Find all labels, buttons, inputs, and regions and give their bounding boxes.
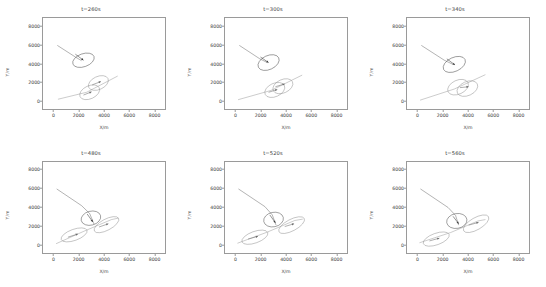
x-tick-mark [417, 110, 418, 112]
y-axis-label: Y/m [5, 211, 10, 220]
y-tick-labels: 02000400060008000 [12, 161, 40, 254]
plot-canvas [225, 162, 347, 253]
velocity-arrow [248, 235, 258, 238]
x-tick-label: 6000 [487, 113, 499, 118]
x-tick-labels: 02000400060008000 [42, 113, 166, 123]
x-axis-label: X/m [224, 125, 348, 130]
x-tick-mark [336, 254, 337, 256]
y-tick-label: 4000 [378, 61, 404, 66]
x-tick-mark [442, 254, 443, 256]
x-tick-label: 6000 [123, 113, 135, 118]
y-axis-label: Y/m [187, 67, 192, 76]
x-tick-label: 8000 [331, 257, 343, 262]
x-tick-label: 2000 [255, 113, 267, 118]
x-tick-labels: 02000400060008000 [406, 113, 530, 123]
x-tick-label: 0 [52, 257, 55, 262]
x-tick-label: 8000 [513, 113, 525, 118]
y-tick-label: 4000 [196, 205, 222, 210]
x-tick-mark [311, 110, 312, 112]
x-tick-mark [129, 110, 130, 112]
uncertainty-ellipse [454, 78, 480, 100]
y-tick-label: 4000 [14, 61, 40, 66]
x-tick-label: 2000 [73, 257, 85, 262]
plot-canvas [225, 18, 347, 109]
plot-panel: t=300sY/mX/m0200040006000800002000400060… [182, 0, 364, 144]
y-tick-labels: 02000400060008000 [376, 161, 404, 254]
y-axis-label: Y/m [5, 67, 10, 76]
uncertainty-ellipse [262, 79, 287, 100]
velocity-arrow [285, 223, 294, 226]
x-tick-mark [260, 254, 261, 256]
uncertainty-ellipse [59, 224, 89, 244]
x-tick-mark [311, 254, 312, 256]
x-tick-marks [224, 110, 348, 112]
x-tick-marks [42, 110, 166, 112]
velocity-arrow [99, 223, 108, 227]
x-tick-label: 4000 [462, 113, 474, 118]
y-axis-label: Y/m [187, 211, 192, 220]
x-tick-labels: 02000400060008000 [406, 257, 530, 267]
x-tick-labels: 02000400060008000 [224, 113, 348, 123]
x-tick-label: 8000 [331, 113, 343, 118]
x-axis-label: X/m [406, 269, 530, 274]
y-axis-label: Y/m [369, 211, 374, 220]
axes-frame [406, 17, 530, 110]
y-tick-label: 0 [378, 99, 404, 104]
y-tick-label: 2000 [196, 223, 222, 228]
x-tick-mark [78, 110, 79, 112]
y-tick-label: 8000 [14, 167, 40, 172]
trajectory-line [57, 45, 81, 60]
x-tick-mark [129, 254, 130, 256]
y-tick-labels: 02000400060008000 [376, 17, 404, 110]
x-tick-label: 6000 [305, 257, 317, 262]
axes-frame [224, 161, 348, 254]
velocity-arrow [87, 214, 93, 222]
trajectory-line [421, 45, 453, 64]
x-tick-labels: 02000400060008000 [224, 257, 348, 267]
panel-title: t=260s [0, 6, 182, 12]
x-tick-label: 8000 [149, 113, 161, 118]
x-tick-mark [286, 254, 287, 256]
panel-title: t=340s [364, 6, 546, 12]
velocity-arrow [429, 237, 439, 240]
y-tick-label: 0 [14, 242, 40, 247]
plot-canvas [43, 162, 165, 253]
y-tick-label: 6000 [196, 186, 222, 191]
y-tick-label: 2000 [196, 80, 222, 85]
y-tick-label: 8000 [196, 167, 222, 172]
x-tick-mark [104, 254, 105, 256]
x-tick-mark [518, 254, 519, 256]
x-tick-mark [336, 110, 337, 112]
velocity-arrow [275, 84, 284, 87]
y-tick-labels: 02000400060008000 [12, 17, 40, 110]
axes-frame [406, 161, 530, 254]
trajectory-line [420, 75, 485, 101]
y-tick-label: 2000 [14, 80, 40, 85]
x-tick-mark [53, 254, 54, 256]
y-tick-label: 8000 [378, 23, 404, 28]
plot-panel: t=480sY/mX/m0200040006000800002000400060… [0, 144, 182, 287]
axes-frame [224, 17, 348, 110]
y-tick-label: 8000 [14, 23, 40, 28]
velocity-arrow [68, 233, 78, 237]
x-tick-mark [493, 254, 494, 256]
plot-panel: t=520sY/mX/m0200040006000800002000400060… [182, 144, 364, 287]
x-tick-label: 8000 [513, 257, 525, 262]
trajectory-line [57, 188, 94, 223]
figure-grid: t=260sY/mX/m0200040006000800002000400060… [0, 0, 546, 287]
panel-title: t=520s [182, 150, 364, 156]
x-tick-label: 4000 [280, 257, 292, 262]
x-tick-marks [406, 254, 530, 256]
x-tick-label: 0 [234, 257, 237, 262]
x-tick-mark [286, 110, 287, 112]
uncertainty-ellipse [276, 213, 307, 237]
y-tick-label: 6000 [378, 186, 404, 191]
x-tick-label: 6000 [305, 113, 317, 118]
x-tick-mark [53, 110, 54, 112]
x-tick-label: 0 [52, 113, 55, 118]
y-tick-label: 8000 [378, 167, 404, 172]
x-tick-label: 4000 [280, 113, 292, 118]
x-tick-label: 6000 [123, 257, 135, 262]
uncertainty-ellipse [86, 73, 111, 94]
x-tick-label: 4000 [98, 113, 110, 118]
